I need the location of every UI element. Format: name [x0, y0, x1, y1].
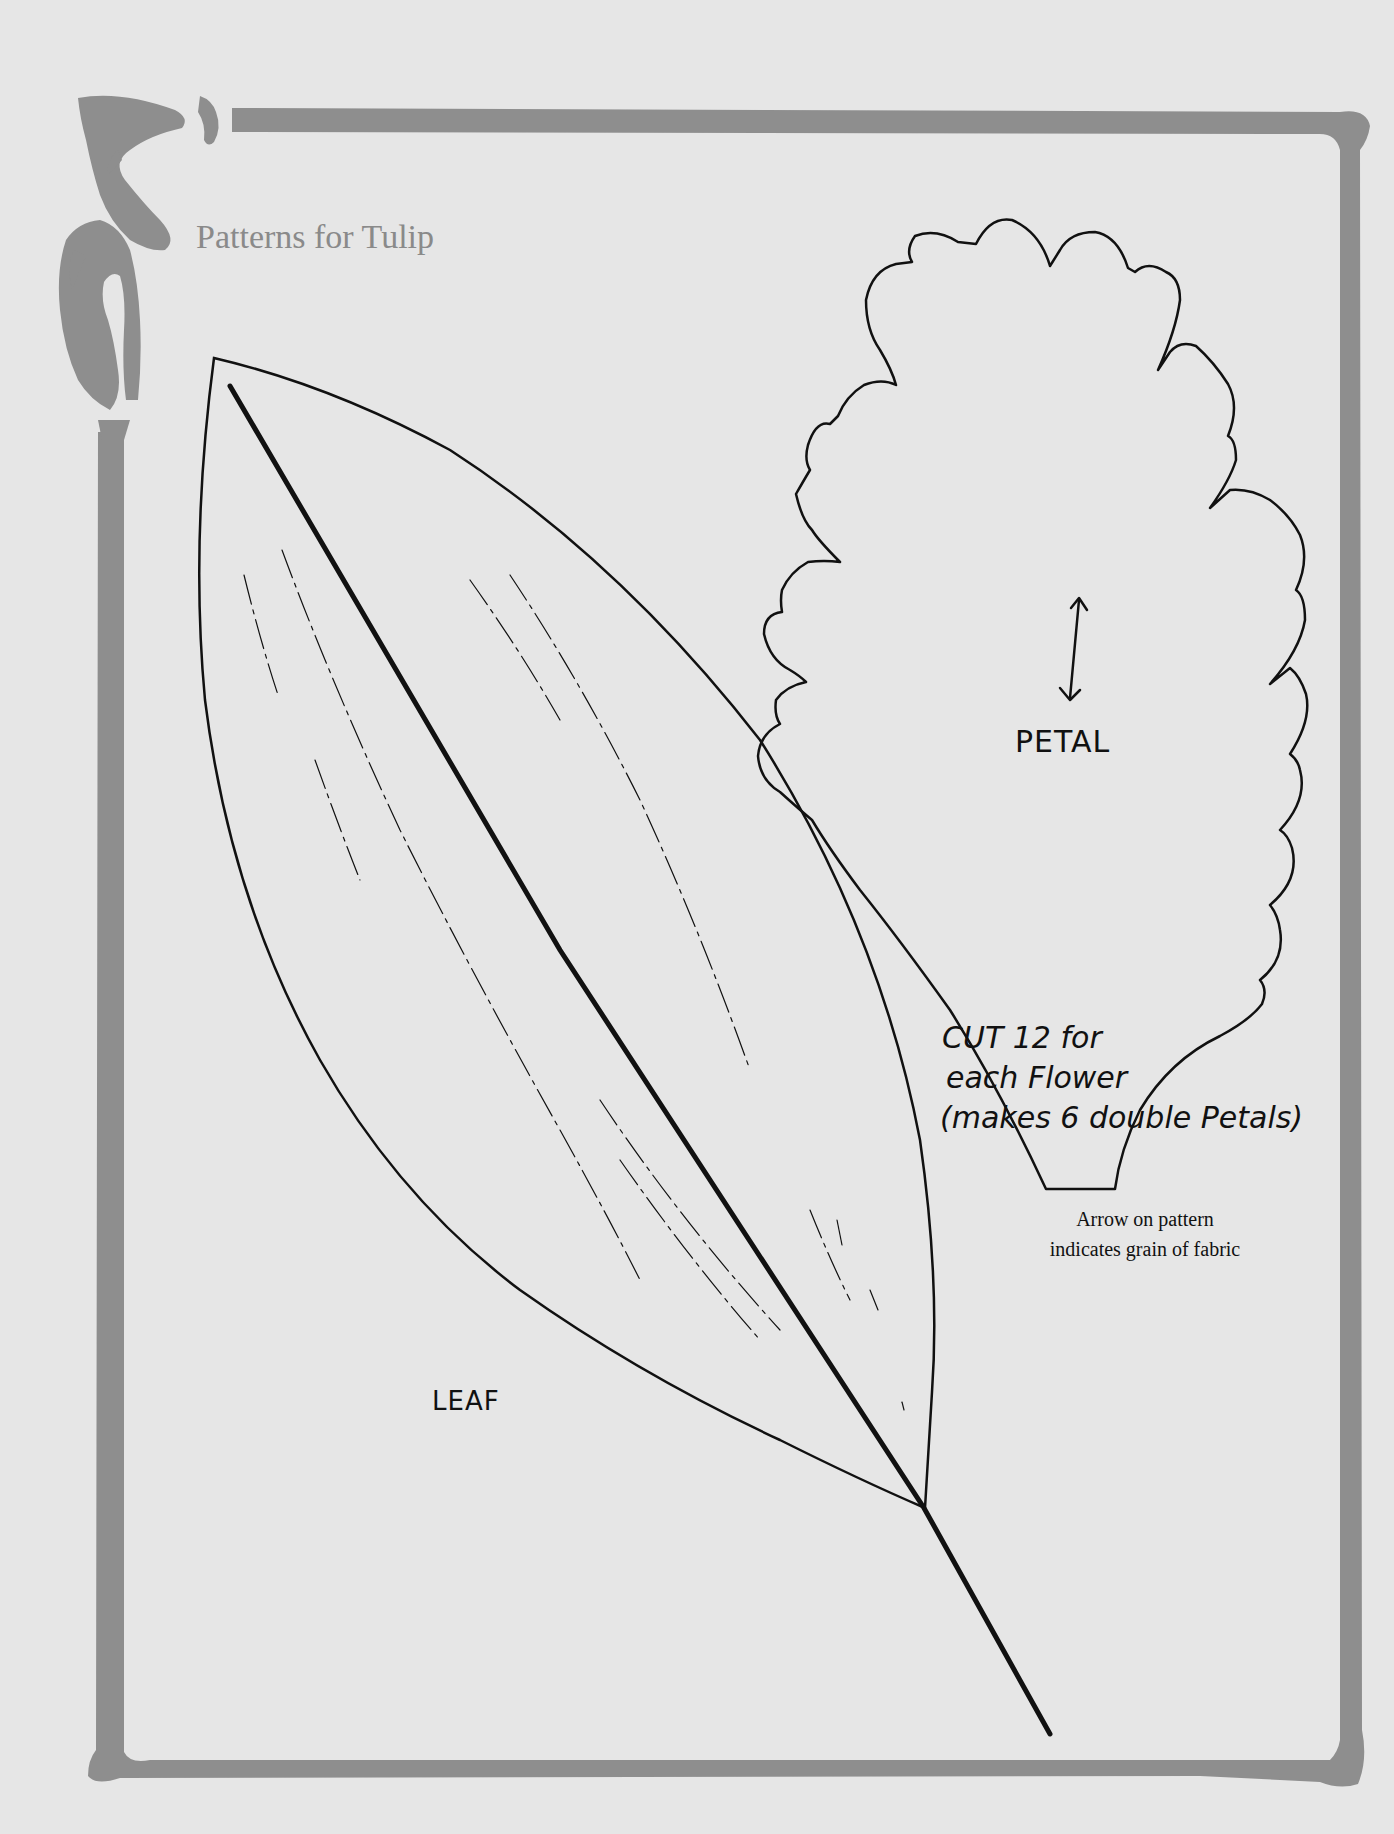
grain-arrow-icon — [1060, 598, 1087, 700]
petal-label: PETAL — [1015, 724, 1110, 759]
leaf-label: LEAF — [432, 1386, 500, 1416]
leaf-pattern — [199, 358, 1050, 1734]
pattern-page: Patterns for Tulip PETAL LEAF CUT 12 for… — [0, 0, 1394, 1834]
leaf-midrib — [230, 386, 1050, 1734]
page-title: Patterns for Tulip — [196, 218, 434, 256]
cut-instructions-line: (makes 6 double Petals) — [940, 1098, 1303, 1138]
grain-note: Arrow on pattern indicates grain of fabr… — [1000, 1204, 1290, 1264]
cut-instructions-line: each Flower — [940, 1058, 1303, 1098]
decorative-frame — [0, 0, 1394, 1834]
grain-note-line: Arrow on pattern — [1000, 1204, 1290, 1234]
cut-instructions: CUT 12 for each Flower (makes 6 double P… — [940, 1018, 1303, 1138]
grain-note-line: indicates grain of fabric — [1000, 1234, 1290, 1264]
cut-instructions-line: CUT 12 for — [940, 1018, 1303, 1058]
leaf-outline — [199, 358, 934, 1508]
